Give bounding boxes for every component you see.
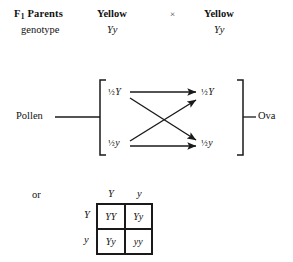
punnett-cell-1-1: yy <box>125 229 153 254</box>
pollen-gamete-Y-allele: Y <box>115 86 121 97</box>
arrow-pollen-Y-to-ova-y <box>130 98 196 140</box>
ova-gamete-y-fraction: ½ <box>201 138 208 148</box>
pollen-bracket <box>100 80 106 155</box>
punnett-column-header-0: Y <box>108 188 114 199</box>
punnett-row-header-1: y <box>84 234 89 245</box>
ova-gamete-Y-allele: Y <box>208 86 214 97</box>
pollen-gamete-y: ½y <box>108 137 120 148</box>
arrow-pollen-y-to-ova-Y <box>130 100 196 141</box>
ova-bracket <box>237 80 243 155</box>
punnett-cell-0-0: YY <box>97 204 125 229</box>
pollen-gamete-Y-fraction: ½ <box>108 87 115 97</box>
pollen-gamete-y-allele: y <box>115 137 119 148</box>
ova-gamete-Y-fraction: ½ <box>201 87 208 97</box>
ova-gamete-Y: ½Y <box>201 86 214 97</box>
punnett-cell-1-0: Yy <box>97 229 125 254</box>
ova-gamete-y: ½y <box>201 137 213 148</box>
or-label: or <box>32 189 41 200</box>
pollen-gamete-y-fraction: ½ <box>108 138 115 148</box>
pollen-label: Pollen <box>16 110 43 121</box>
punnett-row-header-0: Y <box>84 209 90 220</box>
punnett-column-header-1: y <box>137 188 142 199</box>
ova-gamete-y-allele: y <box>208 137 212 148</box>
ova-label: Ova <box>258 110 276 121</box>
punnett-cell-0-1: Yy <box>125 204 153 229</box>
punnett-square: YY Yy Yy yy <box>96 203 153 255</box>
pollen-gamete-Y: ½Y <box>108 86 121 97</box>
